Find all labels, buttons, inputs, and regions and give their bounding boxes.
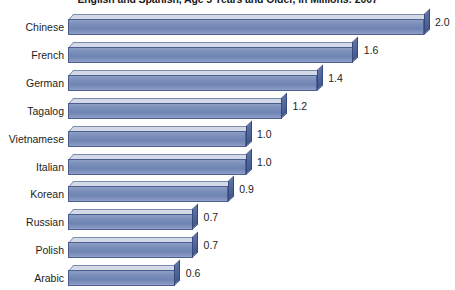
bar-front-face: [68, 159, 246, 175]
value-label-polish: 0.7: [204, 240, 219, 251]
value-label-russian: 0.7: [204, 212, 219, 223]
bar-front-face: [68, 103, 282, 119]
bar-row: Tagalog1.2: [0, 95, 455, 123]
bar-end-cap: [192, 204, 198, 230]
chart-title: English and Spanish, Age 5 Years and Old…: [0, 0, 455, 5]
value-label-italian: 1.0: [257, 157, 272, 168]
bar-end-cap: [246, 148, 252, 174]
bar-row: Korean0.9: [0, 178, 455, 206]
bar-front-face: [68, 19, 424, 35]
bar-german: [68, 70, 317, 91]
value-label-tagalog: 1.2: [293, 101, 308, 112]
bar-end-cap: [352, 36, 358, 62]
bar-italian: [68, 154, 246, 175]
bar-row: Italian1.0: [0, 151, 455, 179]
bar-row: Polish0.7: [0, 234, 455, 262]
bar-front-face: [68, 270, 175, 286]
category-label-german: German: [0, 78, 64, 89]
bar-front-face: [68, 186, 228, 202]
bar-row: Chinese2.0: [0, 11, 455, 39]
category-label-chinese: Chinese: [0, 22, 64, 33]
bar-end-cap: [281, 92, 287, 118]
bar-korean: [68, 181, 228, 202]
bar-end-cap: [246, 120, 252, 146]
category-label-korean: Korean: [0, 189, 64, 200]
value-label-vietnamese: 1.0: [257, 129, 272, 140]
bar-end-cap: [424, 9, 430, 35]
bar-front-face: [68, 214, 193, 230]
bar-front-face: [68, 75, 317, 91]
category-label-tagalog: Tagalog: [0, 106, 64, 117]
bar-row: Arabic0.6: [0, 262, 455, 290]
bar-russian: [68, 209, 193, 230]
plot-area: Chinese2.0French1.6German1.4Tagalog1.2Vi…: [0, 11, 455, 290]
bar-tagalog: [68, 98, 282, 119]
category-label-italian: Italian: [0, 162, 64, 173]
category-label-french: French: [0, 50, 64, 61]
bar-end-cap: [192, 232, 198, 258]
bar-arabic: [68, 265, 175, 286]
bar-vietnamese: [68, 126, 246, 147]
bar-chart: English and Spanish, Age 5 Years and Old…: [0, 0, 455, 290]
bar-front-face: [68, 242, 193, 258]
bar-front-face: [68, 47, 353, 63]
value-label-arabic: 0.6: [186, 268, 201, 279]
category-label-arabic: Arabic: [0, 273, 64, 284]
bar-row: French1.6: [0, 39, 455, 67]
bar-end-cap: [174, 260, 180, 286]
bar-chinese: [68, 14, 424, 35]
value-label-chinese: 2.0: [435, 17, 450, 28]
value-label-korean: 0.9: [239, 184, 254, 195]
category-label-russian: Russian: [0, 217, 64, 228]
category-label-vietnamese: Vietnamese: [0, 134, 64, 145]
bar-end-cap: [317, 64, 323, 90]
bar-front-face: [68, 131, 246, 147]
bar-row: German1.4: [0, 67, 455, 95]
value-label-french: 1.6: [364, 45, 379, 56]
bar-french: [68, 42, 353, 63]
value-label-german: 1.4: [328, 73, 343, 84]
bar-polish: [68, 237, 193, 258]
bar-end-cap: [228, 176, 234, 202]
bar-row: Russian0.7: [0, 206, 455, 234]
category-label-polish: Polish: [0, 245, 64, 256]
bar-row: Vietnamese1.0: [0, 123, 455, 151]
